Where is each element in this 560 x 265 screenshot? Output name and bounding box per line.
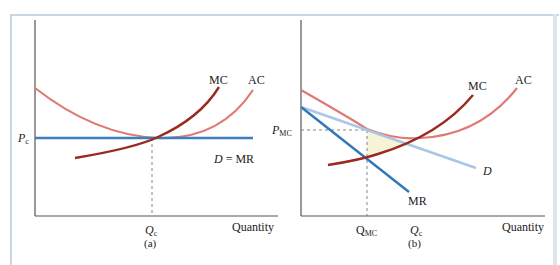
panel-a-ac-curve <box>35 88 253 138</box>
panel-b-ac-curve <box>301 88 517 138</box>
pmc-sub: MC <box>279 129 291 138</box>
panel-b-pmc-label: PMC <box>272 124 292 138</box>
panel-b <box>301 20 545 216</box>
panel-b-demand-line <box>301 107 476 168</box>
panel-a-caption: (a) <box>144 238 156 249</box>
qmc-sub: MC <box>365 229 377 238</box>
panel-b-qc-label: Qc <box>410 224 422 238</box>
panel-a-pc-label: Pc <box>18 132 29 146</box>
panel-a <box>35 20 278 216</box>
panel-b-mr-label: MR <box>408 195 427 207</box>
panel-b-shaded-area <box>367 130 408 158</box>
qc-b-main: Q <box>410 223 419 237</box>
pc-sub: c <box>25 137 29 146</box>
qc-main: Q <box>145 223 154 237</box>
panel-a-mc-curve <box>75 87 219 158</box>
panel-b-ac-label: AC <box>515 74 532 86</box>
panel-b-x-axis-label: Quantity <box>502 221 544 233</box>
panel-a-qc-label: Qc <box>145 224 157 238</box>
panel-b-mc-label: MC <box>468 80 487 92</box>
panel-a-demand-label: D = MR <box>214 153 254 165</box>
panel-a-x-axis-label: Quantity <box>232 221 274 233</box>
panel-a-demand-label-text: = MR <box>223 152 254 166</box>
panel-b-qmc-label: QMC <box>356 224 377 238</box>
panel-a-ac-label: AC <box>248 74 265 86</box>
panel-a-mc-label: MC <box>209 74 228 86</box>
panel-b-caption: (b) <box>408 238 421 249</box>
qmc-main: Q <box>356 223 365 237</box>
panel-b-demand-label: D <box>483 165 492 177</box>
